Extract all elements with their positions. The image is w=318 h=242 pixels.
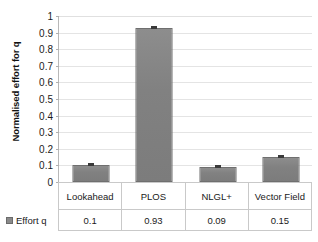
error-bar-cap xyxy=(215,165,221,168)
legend-entry-effort-q: Effort q xyxy=(6,210,59,231)
y-axis-title: Normalised effort for q xyxy=(2,0,28,182)
bar-slot xyxy=(59,16,123,182)
value-cell-2: 0.09 xyxy=(185,210,248,231)
table-row-values: Effort q 0.1 0.93 0.09 0.15 xyxy=(6,210,312,231)
category-cell-2: NLGL+ xyxy=(185,183,248,210)
legend-spacer-cell xyxy=(6,183,59,210)
y-axis-tick-label: 0.6 xyxy=(39,77,53,88)
y-axis-tick-label: 1 xyxy=(47,11,53,22)
y-axis-tick-label: 0.9 xyxy=(39,27,53,38)
category-cell-3: Vector Field xyxy=(248,183,311,210)
plot-area xyxy=(58,16,312,182)
bar-slot xyxy=(250,16,314,182)
bar-nlgl- xyxy=(199,167,236,182)
legend-label: Effort q xyxy=(16,215,46,226)
bar-vector-field xyxy=(263,157,300,182)
error-bar-cap xyxy=(278,155,284,158)
error-bar-cap xyxy=(151,26,157,29)
y-axis-tick-label: 0.7 xyxy=(39,60,53,71)
bars-layer xyxy=(59,16,312,182)
value-cell-1: 0.93 xyxy=(122,210,185,231)
y-axis-tick-label: 0.4 xyxy=(39,110,53,121)
y-axis-tick-label: 0.5 xyxy=(39,94,53,105)
y-axis-tick-label: 0.2 xyxy=(39,143,53,154)
y-axis-tick-label: 0.8 xyxy=(39,44,53,55)
legend-square-icon xyxy=(6,217,13,224)
y-axis-title-text: Normalised effort for q xyxy=(10,41,21,141)
value-cell-3: 0.15 xyxy=(248,210,311,231)
category-cell-0: Lookahead xyxy=(59,183,122,210)
bar-chart-figure: Normalised effort for q 10.90.80.70.60.5… xyxy=(0,0,318,242)
bar-slot xyxy=(123,16,187,182)
y-axis-tick-labels: 10.90.80.70.60.50.40.30.20.10 xyxy=(26,9,56,189)
table-row-categories: Lookahead PLOS NLGL+ Vector Field xyxy=(6,183,312,210)
error-bar-cap xyxy=(88,163,94,166)
chart-data-table: Lookahead PLOS NLGL+ Vector Field Effort… xyxy=(6,182,312,231)
y-axis-tick-label: 0.3 xyxy=(39,127,53,138)
bar-slot xyxy=(186,16,250,182)
category-cell-1: PLOS xyxy=(122,183,185,210)
bar-plos xyxy=(136,28,173,182)
value-cell-0: 0.1 xyxy=(59,210,122,231)
y-axis-tick-label: 0.1 xyxy=(39,160,53,171)
bar-lookahead xyxy=(72,165,109,182)
